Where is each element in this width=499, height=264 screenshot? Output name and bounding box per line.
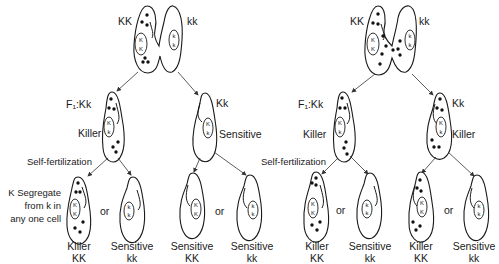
arrow [178,72,198,95]
right-parent-pair: K K k k KK kk [350,6,430,75]
kappa-particle [396,47,399,50]
kappa-particle [414,228,417,231]
parent-genotype-label: KK [350,15,364,27]
or-label: or [215,205,225,217]
kappa-particle [314,176,317,179]
kappa-particle [432,145,435,148]
kappa-particle [435,106,438,109]
arrow [350,156,368,174]
kappa-particle [78,190,81,193]
left-parent-pair: K K k k KK kk [118,6,198,73]
kappa-particle [310,181,313,184]
offspring-phenotype-label: Killer [305,240,329,252]
kappa-particle [140,20,143,23]
kappa-particle [81,220,84,223]
offspring-phenotype-label: Killer [67,240,91,252]
kappa-particle [398,53,401,56]
kappa-particle [315,228,318,231]
kappa-particle [398,39,401,42]
kappa-particle [344,140,347,143]
parent-genotype-label: kk [419,15,430,27]
kappa-particle [343,106,346,109]
f1-genotype-label: Kk [216,97,229,109]
kappa-particle [141,60,144,63]
nucleus-allele: K [194,202,198,208]
offspring-genotype-label: kk [469,252,480,264]
kappa-particle [430,138,433,141]
kappa-particle [109,97,112,100]
offspring-sensitive-kk-cell: k k [464,175,489,241]
kappa-particle [391,48,394,51]
kappa-particle [116,140,119,143]
f1-genotype-label: F₁:Kk [66,98,92,110]
right-f1-killer-cell-2: K k [427,93,452,159]
left-f1-sensitive-cell: K k [193,93,217,162]
note-line: from k in [25,200,61,211]
left-panel: K K k k KK kk K k F₁:Kk Killer [8,6,273,264]
offspring-genotype-label: kk [247,252,258,264]
kappa-particle [340,96,343,99]
kappa-particle [112,107,115,110]
kappa-particle [345,152,348,155]
f1-genotype-label: Kk [452,97,465,109]
right-f1-killer-cell: K k [333,92,355,162]
nucleus-allele: K [311,210,315,216]
nucleus-allele: K [194,211,198,217]
nucleus-allele: K [73,211,77,217]
kappa-particle [107,106,110,109]
kappa-particle [380,52,383,55]
nucleus-allele: K [139,37,143,43]
kappa-particle [378,62,381,65]
kappa-particle [143,56,146,59]
arrow [194,158,200,172]
arrow [117,72,138,91]
or-label: or [336,204,346,216]
kappa-particle [145,13,148,16]
f1-phenotype-label: Killer [452,128,476,140]
offspring-phenotype-label: Sensitive [349,240,392,252]
kappa-particle [384,44,387,47]
f1-phenotype-label: Killer [303,128,327,140]
offspring-sensitive-kk-cell: k k [120,177,145,243]
offspring-sensitive-kk-cell: k k [237,175,262,241]
offspring-phenotype-label: Sensitive [453,240,496,252]
offspring-sensitive-kk-dominant-cell: K K [180,173,205,239]
kappa-particle [342,146,345,149]
arrow [422,157,436,173]
kappa-particle [415,186,418,189]
offspring-phenotype-label: Sensitive [231,240,274,252]
offspring-genotype-label: KK [414,252,428,264]
arrow [118,158,131,175]
parent-genotype-label: KK [118,15,132,27]
kappa-particle [314,183,317,186]
nucleus-allele: K [311,201,315,207]
offspring-phenotype-label: Killer [409,240,433,252]
arrow [352,74,375,92]
kappa-particle [145,23,148,26]
kappa-particle [437,145,440,148]
or-label: or [444,204,454,216]
kappa-particle [74,190,77,193]
kappa-particle [114,150,117,153]
kappa-particle [376,22,379,25]
note-line: K Segregate [8,187,61,198]
nucleus-allele: K [439,120,443,126]
offspring-killer-kk-cell: K K [409,172,434,242]
kappa-particle [419,189,422,192]
arrow [448,152,474,176]
f1-genotype-label: F₁:Kk [298,98,324,110]
offspring-genotype-label: kk [127,252,138,264]
offspring-genotype-label: KK [185,252,199,264]
nucleus-allele: K [420,200,424,206]
left-f1-killer-cell: K k [102,92,124,162]
kappa-particle [438,97,441,100]
offspring-killer-kk-cell: K K [304,172,329,242]
kappa-particle [73,226,76,229]
kappa-particle [318,220,321,223]
kappa-particle [411,220,414,223]
kappa-particle [418,178,421,181]
offspring-genotype-label: KK [310,252,324,264]
kappa-particle [338,106,341,109]
offspring-phenotype-label: Sensitive [111,240,154,252]
or-label: or [100,205,110,217]
